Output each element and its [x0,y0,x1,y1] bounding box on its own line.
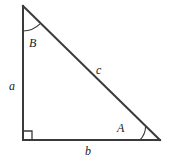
side-c-line [23,6,160,140]
triangle-figure: a b c A B [0,0,170,163]
angle-A-arc-icon [140,126,146,140]
angle-B-label: B [29,37,36,49]
angle-B-arc-icon [23,24,40,31]
triangle-drawing [0,0,170,163]
right-angle-marker-icon [23,131,32,140]
side-a-label: a [9,80,15,92]
side-b-label: b [85,145,91,157]
angle-A-label: A [117,122,124,134]
side-c-label: c [96,64,101,76]
